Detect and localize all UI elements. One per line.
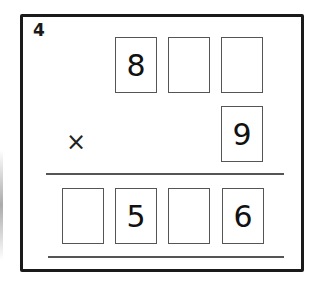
product-digit-box-4[interactable]: 6 — [222, 188, 264, 244]
product-digit-box-1[interactable] — [62, 188, 104, 244]
multiplier-digit-box[interactable]: 9 — [221, 106, 263, 162]
product-digit-box-3[interactable] — [168, 188, 210, 244]
multiply-sign: × — [66, 128, 86, 156]
multiplicand-digit-box-2[interactable] — [168, 37, 210, 93]
page-edge-shadow — [0, 150, 3, 260]
product-digit-box-2[interactable]: 5 — [115, 188, 157, 244]
question-number: 4 — [33, 20, 45, 40]
multiplicand-digit-box-3[interactable] — [221, 37, 263, 93]
bottom-rule-line — [48, 256, 284, 258]
multiplicand-digit-box-1[interactable]: 8 — [115, 37, 157, 93]
top-rule-line — [46, 173, 284, 175]
